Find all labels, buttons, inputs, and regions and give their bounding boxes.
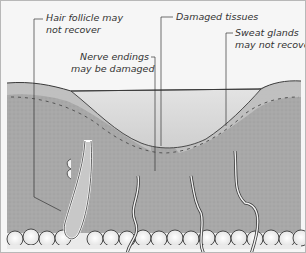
- skin-burn-diagram: Hair follicle may not recover Nerve endi…: [0, 0, 306, 253]
- label-hair-follicle: Hair follicle may not recover: [46, 12, 123, 36]
- label-damaged-tissues: Damaged tissues: [176, 11, 258, 23]
- label-nerve-endings: Nerve endings may be damaged: [71, 51, 149, 75]
- label-sweat-glands: Sweat glands may not recover: [235, 27, 306, 51]
